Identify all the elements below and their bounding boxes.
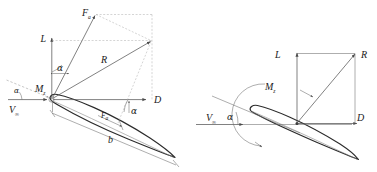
drag-label-right: D [356, 112, 365, 123]
angle-of-attack-label-lift: α [57, 63, 63, 73]
freestream-velocity-label-right: V∞ [206, 112, 216, 125]
force-f-arrow-left [53, 16, 95, 98]
right-panel: L R D Mz V∞ α [196, 49, 367, 160]
chord-line-right [212, 96, 300, 133]
moment-label-right: Mz [264, 81, 276, 94]
aerodynamics-figure: Fa L R D Mz V∞ Fa b α α α [0, 0, 377, 172]
angle-of-attack-label-leading: α [14, 86, 19, 95]
force-f-label: Fa [81, 7, 91, 20]
resultant-force-label-right: R [360, 49, 367, 60]
drag-label-left: D [153, 94, 162, 105]
moment-direction-arrow [300, 90, 313, 97]
resultant-arrow-right [298, 54, 356, 123]
resultant-force-label-left: R [100, 54, 107, 65]
angle-arc-leading [20, 92, 23, 99]
angle-of-attack-label-drag: α [131, 106, 137, 116]
moment-label-left: Mz [34, 83, 46, 96]
angle-of-attack-label-right: α [227, 112, 233, 122]
angle-arc-drag [124, 100, 128, 112]
lift-label-left: L [40, 33, 47, 44]
chord-length-label: b [108, 134, 113, 145]
left-panel: Fa L R D Mz V∞ Fa b α α α [7, 7, 180, 167]
airfoil-outline-right [250, 105, 358, 159]
lift-label-right: L [274, 49, 281, 60]
angle-arc-right [236, 112, 238, 125]
chord-dimension-b [50, 110, 179, 167]
chord-force-label: Fa [100, 111, 109, 121]
freestream-velocity-label-left: V∞ [9, 104, 19, 117]
